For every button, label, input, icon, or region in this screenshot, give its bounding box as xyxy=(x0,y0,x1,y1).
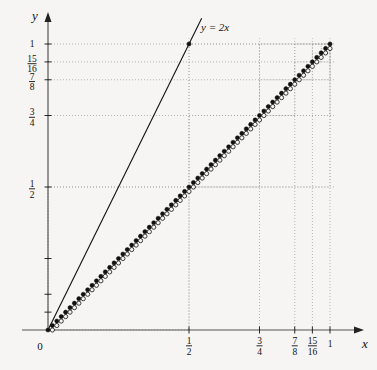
open-endpoint xyxy=(279,96,283,100)
open-endpoint xyxy=(262,113,266,117)
closed-endpoint xyxy=(143,230,147,234)
open-endpoint xyxy=(209,167,213,171)
closed-endpoint xyxy=(249,122,253,126)
open-endpoint xyxy=(306,69,310,73)
open-endpoint xyxy=(77,301,81,305)
closed-endpoint xyxy=(125,247,129,251)
tick-label-numerator: 3 xyxy=(30,107,35,117)
open-endpoint xyxy=(231,145,235,149)
open-endpoint xyxy=(156,221,160,225)
closed-endpoint xyxy=(319,51,323,55)
tick-label-numerator: 15 xyxy=(308,336,318,346)
open-endpoint xyxy=(81,297,85,301)
open-endpoint xyxy=(72,306,76,310)
closed-endpoint xyxy=(108,265,112,269)
closed-endpoint xyxy=(121,252,125,256)
open-endpoint xyxy=(50,328,54,332)
open-endpoint xyxy=(64,314,68,318)
closed-endpoint xyxy=(160,212,164,216)
open-endpoint xyxy=(147,230,151,234)
tick-label-numerator: 1 xyxy=(30,179,35,189)
closed-endpoint xyxy=(182,189,186,193)
tick-label: 1 xyxy=(30,39,35,49)
closed-endpoint xyxy=(209,163,213,167)
closed-endpoint xyxy=(72,301,76,305)
closed-endpoint xyxy=(138,234,142,238)
closed-endpoint xyxy=(235,136,239,140)
closed-endpoint xyxy=(174,198,178,202)
tick-label-denominator: 2 xyxy=(187,347,192,357)
closed-endpoint xyxy=(266,104,270,108)
closed-endpoint xyxy=(244,127,248,131)
open-endpoint xyxy=(227,149,231,153)
reference-line-y-equals-2x xyxy=(48,18,202,330)
closed-endpoint xyxy=(50,323,54,327)
open-endpoint xyxy=(271,104,275,108)
closed-endpoint xyxy=(293,78,297,82)
tick-label-denominator: 8 xyxy=(30,82,35,92)
open-endpoint xyxy=(266,109,270,113)
open-endpoint xyxy=(253,122,257,126)
closed-endpoint xyxy=(297,73,301,77)
open-endpoint xyxy=(319,55,323,59)
closed-endpoint xyxy=(169,203,173,207)
open-endpoint xyxy=(103,274,107,278)
tick-label-denominator: 2 xyxy=(30,190,35,200)
reference-line-marker xyxy=(187,42,191,46)
open-endpoint xyxy=(143,234,147,238)
tick-label: 1 xyxy=(328,339,333,349)
open-endpoint xyxy=(297,78,301,82)
tick-label-denominator: 16 xyxy=(308,347,318,357)
open-endpoint xyxy=(240,136,244,140)
open-endpoint xyxy=(275,100,279,104)
tick-label-numerator: 7 xyxy=(292,336,297,346)
tick-label-numerator: 7 xyxy=(30,72,35,82)
open-endpoint xyxy=(257,118,261,122)
open-endpoint xyxy=(213,163,217,167)
open-endpoint xyxy=(293,82,297,86)
closed-endpoint xyxy=(99,274,103,278)
closed-endpoint xyxy=(275,96,279,100)
open-endpoint xyxy=(152,225,156,229)
open-endpoint xyxy=(108,270,112,274)
open-endpoint xyxy=(125,252,129,256)
open-endpoint xyxy=(165,212,169,216)
open-endpoint xyxy=(323,51,327,55)
closed-endpoint xyxy=(147,225,151,229)
closed-endpoint xyxy=(213,158,217,162)
closed-endpoint xyxy=(222,149,226,153)
reference-line-label: y = 2x xyxy=(200,21,229,33)
open-endpoint xyxy=(244,131,248,135)
open-endpoint xyxy=(68,310,72,314)
open-endpoint xyxy=(218,158,222,162)
open-endpoint xyxy=(116,261,120,265)
closed-endpoint xyxy=(288,82,292,86)
closed-endpoint xyxy=(81,292,85,296)
x-axis-label: x xyxy=(361,336,368,351)
open-endpoint xyxy=(288,87,292,91)
closed-endpoint xyxy=(156,216,160,220)
closed-endpoint xyxy=(240,131,244,135)
closed-endpoint xyxy=(262,109,266,113)
open-endpoint xyxy=(90,288,94,292)
open-endpoint xyxy=(138,239,142,243)
tick-label-numerator: 3 xyxy=(257,336,262,346)
open-endpoint xyxy=(86,292,90,296)
open-endpoint xyxy=(196,180,200,184)
open-endpoint xyxy=(235,140,239,144)
closed-endpoint xyxy=(187,185,191,189)
closed-endpoint xyxy=(196,176,200,180)
closed-endpoint xyxy=(306,64,310,68)
y-axis-label: y xyxy=(30,8,38,23)
closed-endpoint xyxy=(134,239,138,243)
open-endpoint xyxy=(315,60,319,64)
closed-endpoint xyxy=(152,221,156,225)
tick-label-numerator: 1 xyxy=(187,336,192,346)
closed-endpoint xyxy=(200,171,204,175)
origin-label: 0 xyxy=(37,340,43,352)
open-endpoint xyxy=(55,323,59,327)
reference-line xyxy=(48,18,202,330)
open-endpoint xyxy=(182,194,186,198)
open-endpoint xyxy=(205,171,209,175)
closed-endpoint xyxy=(178,194,182,198)
